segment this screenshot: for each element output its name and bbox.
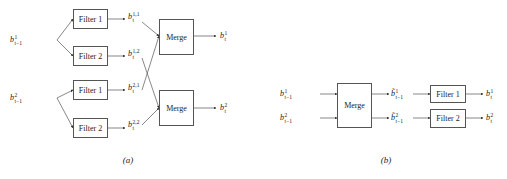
filter-box-1: Filter 1	[430, 85, 466, 103]
filter-box-1a: Filter 1	[73, 9, 108, 29]
output-label-1: b1t	[220, 31, 227, 42]
output-label-2: b2t	[486, 113, 493, 124]
input-label-2: b2t−1	[280, 113, 292, 124]
intermediate-label-11: b1,1t	[128, 12, 139, 23]
intermediate-label-12: b1,2t	[128, 49, 139, 60]
merge-box-1: Merge	[159, 19, 194, 55]
output-label-2: b2t	[220, 103, 227, 114]
input-label-1: b1t−1	[280, 89, 292, 100]
merged-label-2: b̃2t−1	[391, 113, 403, 124]
filter-box-2: Filter 2	[430, 109, 466, 128]
merged-label-1: b̃1t−1	[391, 89, 403, 100]
filter-box-2a: Filter 2	[73, 46, 108, 66]
caption-b: (b)	[381, 155, 392, 165]
filter-box-1b: Filter 1	[73, 80, 108, 100]
merge-box: Merge	[337, 83, 372, 128]
input-label-1: b1t−1	[10, 35, 22, 46]
merge-box-2: Merge	[159, 90, 194, 126]
caption-a: (a)	[123, 155, 134, 165]
input-label-2: b2t−1	[10, 93, 22, 104]
output-label-1: b1t	[486, 89, 493, 100]
intermediate-label-22: b2,2t	[128, 120, 139, 131]
intermediate-label-21: b2,1t	[128, 83, 139, 94]
filter-box-2b: Filter 2	[73, 118, 108, 138]
